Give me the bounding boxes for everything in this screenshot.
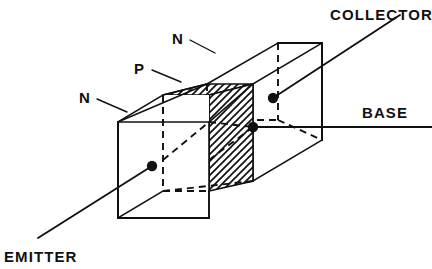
diagram-canvas: COLLECTOR BASE EMITTER N P N — [0, 0, 432, 269]
base-contact-dot — [248, 122, 258, 132]
p-base-right-face — [209, 84, 253, 191]
collector-label: COLLECTOR — [330, 6, 432, 23]
transistor-diagram: COLLECTOR BASE EMITTER N P N — [0, 0, 432, 269]
base-label: BASE — [362, 104, 408, 121]
emitter-label: EMITTER — [4, 248, 78, 265]
region-label-n-left: N — [79, 89, 90, 106]
collector-contact-dot — [268, 93, 278, 103]
region-label-p-middle: P — [134, 60, 145, 77]
emitter-contact-dot — [147, 161, 157, 171]
region-label-n-top: N — [172, 30, 183, 47]
